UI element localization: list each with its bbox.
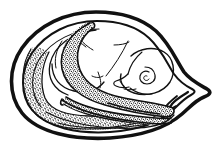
figure-container: Fetus in utero Longitudinal section line… [0,0,219,143]
fetus-in-utero-illustration [0,0,219,143]
